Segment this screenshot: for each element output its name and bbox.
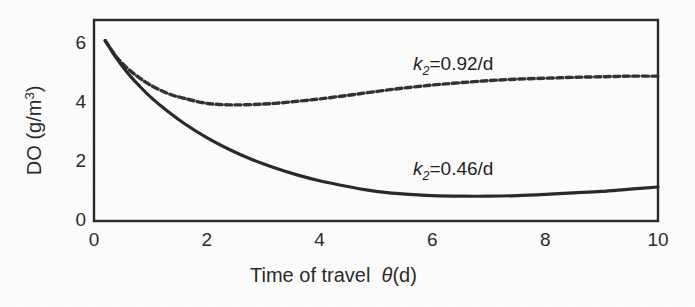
x-tick-label-4: 4 <box>300 229 340 251</box>
x-axis-title-theta-symbol: θ <box>382 264 393 286</box>
series-annotation-k2-092: k2=0.92/d <box>413 53 493 78</box>
data-series-group <box>105 41 658 197</box>
y-tick-label-6: 6 <box>60 32 86 54</box>
k2-high-value: =0.92/d <box>429 53 493 74</box>
chart-plot-area <box>0 0 695 307</box>
figure-container: DO (g/m3) Time of travel θ(d) k2=0.92/d … <box>0 0 695 307</box>
k2-high-symbol: k <box>413 53 423 74</box>
series-annotation-k2-046: k2=0.46/d <box>413 158 493 183</box>
x-tick-label-6: 6 <box>412 229 452 251</box>
x-axis-title-unit: (d) <box>392 264 416 286</box>
y-axis-title-exponent: 3 <box>22 92 37 99</box>
y-tick-label-0: 0 <box>60 209 86 231</box>
x-axis-title-main: Time of travel <box>250 264 370 286</box>
x-tick-label-8: 8 <box>525 229 565 251</box>
y-tick-label-4: 4 <box>60 91 86 113</box>
series-line-k2-046 <box>105 41 658 197</box>
x-tick-label-0: 0 <box>74 229 114 251</box>
y-axis-title-close: ) <box>23 86 45 93</box>
y-axis-title: DO (g/m3) <box>22 50 47 210</box>
y-tick-label-2: 2 <box>60 150 86 172</box>
x-axis-title: Time of travel θ(d) <box>250 264 417 287</box>
series-line-k2-092 <box>105 41 658 105</box>
x-tick-label-2: 2 <box>187 229 227 251</box>
k2-low-value: =0.46/d <box>429 158 493 179</box>
y-axis-title-main: DO (g/m <box>23 100 45 176</box>
x-tick-label-10: 10 <box>638 229 678 251</box>
k2-low-symbol: k <box>413 158 423 179</box>
